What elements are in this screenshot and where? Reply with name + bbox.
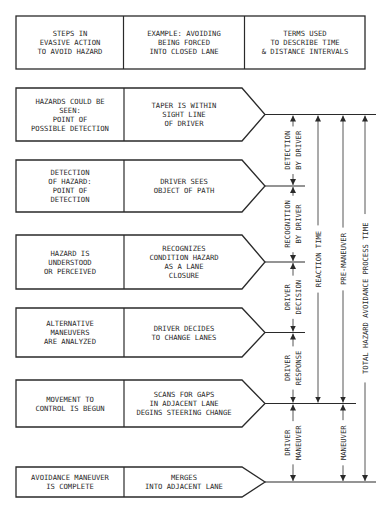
step-description: IS COMPLETE <box>46 482 94 491</box>
span-label: PRE-MANEUVER <box>339 232 348 285</box>
header-cell-text: STEPS IN <box>53 29 88 38</box>
span-label-text: TOTAL HAZARD AVOIDANCE PROCESS TIME <box>361 223 370 374</box>
step-example: CONDITION HAZARD <box>149 253 218 262</box>
hazard-avoidance-diagram: STEPS INEVASIVE ACTIONTO AVOID HAZARDEXA… <box>0 0 388 508</box>
step-row: HAZARDS COULD BESEEN:POINT OFPOSSIBLE DE… <box>16 88 376 141</box>
header-cell-text: TO DESCRIBE TIME <box>270 38 339 47</box>
header-cell-text: EVASIVE ACTION <box>40 38 101 47</box>
step-example: OF DRIVER <box>165 119 205 128</box>
step-example: TAPER IS WITHIN <box>152 101 217 110</box>
step-example: MERGES <box>171 473 197 482</box>
step-example: RECOGNIZES <box>162 244 205 253</box>
steps-list: HAZARDS COULD BESEEN:POINT OFPOSSIBLE DE… <box>16 88 376 497</box>
header-cell-text: TERMS USED <box>283 29 326 38</box>
step-description: POINT OF <box>53 186 88 195</box>
step-row: HAZARD ISUNDERSTOODOR PERCEIVEDRECOGNIZE… <box>16 235 305 289</box>
span-label: MANEUVER <box>339 425 348 460</box>
phase-label-text: DRIVER <box>283 284 292 311</box>
step-description: HAZARD IS <box>51 249 90 258</box>
step-example: IN ADJACENT LANE <box>149 399 218 408</box>
header-cell-text: INTO CLOSED LANE <box>149 47 218 56</box>
step-description: POSSIBLE DETECTION <box>31 124 109 133</box>
step-description: DETECTION <box>51 168 90 177</box>
step-example: DRIVER DECIDES <box>154 324 215 333</box>
phase-label-text: DRIVER <box>283 429 292 456</box>
phase-label: DRIVERRESPONSE <box>283 351 303 386</box>
step-description: OF HAZARD: <box>48 177 91 186</box>
step-description: SEEN: <box>59 106 81 115</box>
phase-label-text: DECISION <box>294 280 303 315</box>
span-label-text: PRE-MANEUVER <box>339 232 348 285</box>
step-example: TO CHANGE LANES <box>152 333 217 342</box>
step-description: DETECTION <box>51 195 90 204</box>
step-row: ALTERNATIVEMANEUVERSARE ANALYZEDDRIVER D… <box>16 308 305 357</box>
phase-label-text: MANEUVER <box>294 425 303 460</box>
step-row: AVOIDANCE MANEUVERIS COMPLETEMERGESINTO … <box>16 467 376 497</box>
step-description: OR PERCEIVED <box>44 267 96 276</box>
step-example: SIGHT LINE <box>162 110 205 119</box>
phase-label-text: DRIVER <box>283 354 292 381</box>
step-example: OBJECT OF PATH <box>154 186 215 195</box>
step-example: AS A LANE <box>165 262 204 271</box>
step-description: ARE ANALYZED <box>44 337 96 346</box>
step-description: UNDERSTOOD <box>48 258 91 267</box>
phase-label-text: RECOGNITION <box>283 200 292 248</box>
header-cell-text: TO AVOID HAZARD <box>38 47 103 56</box>
step-example: DRIVER SEES <box>160 177 208 186</box>
step-example: CLOSURE <box>169 271 199 280</box>
phase-label: RECOGNITIONBY DRIVER <box>283 200 303 248</box>
step-description: MANEUVERS <box>51 328 90 337</box>
header-cell-text: EXAMPLE: AVOIDING <box>147 29 221 38</box>
span-label: REACTION TIME <box>314 231 323 287</box>
step-row: MOVEMENT TOCONTROL IS BEGUNSCANS FOR GAP… <box>16 380 356 427</box>
step-example: SCANS FOR GAPS <box>154 390 215 399</box>
phase-label: DRIVERMANEUVER <box>283 425 303 460</box>
phase-label: DETECTIONBY DRIVER <box>283 130 303 170</box>
step-row: DETECTIONOF HAZARD:POINT OFDETECTIONDRIV… <box>16 160 305 212</box>
step-description: POINT OF <box>53 115 88 124</box>
header-cell-text: & DISTANCE INTERVALS <box>262 47 349 56</box>
phase-label-text: DETECTION <box>283 131 292 170</box>
header-cell-text: BEING FORCED <box>158 38 210 47</box>
span-label-text: REACTION TIME <box>314 231 323 287</box>
phase-label: DRIVERDECISION <box>283 280 303 315</box>
phase-label-text: RESPONSE <box>294 351 303 386</box>
phase-label-text: BY DRIVER <box>294 204 303 244</box>
step-description: AVOIDANCE MANEUVER <box>31 473 110 482</box>
step-description: ALTERNATIVE <box>46 319 94 328</box>
phase-label-text: BY DRIVER <box>294 130 303 170</box>
step-description: MOVEMENT TO <box>46 395 94 404</box>
step-example: INTO ADJACENT LANE <box>145 482 223 491</box>
step-description: CONTROL IS BEGUN <box>35 404 104 413</box>
step-example: DEGINS STEERING CHANGE <box>136 408 231 417</box>
step-description: HAZARDS COULD BE <box>35 97 104 106</box>
span-label-text: MANEUVER <box>339 425 348 460</box>
header-table: STEPS INEVASIVE ACTIONTO AVOID HAZARDEXA… <box>16 16 365 69</box>
span-label: TOTAL HAZARD AVOIDANCE PROCESS TIME <box>361 223 370 374</box>
interval-annotations: DETECTIONBY DRIVERRECOGNITIONBY DRIVERDR… <box>283 116 370 482</box>
